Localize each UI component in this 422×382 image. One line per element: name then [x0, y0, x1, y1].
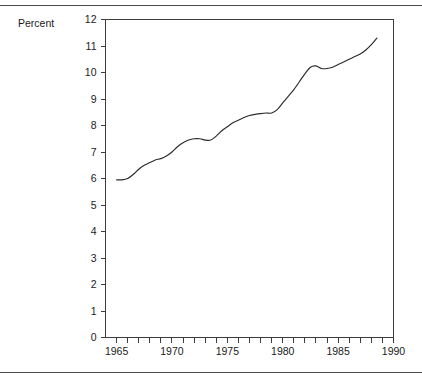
- x-axis-tick-labels: 196519701975198019851990: [105, 345, 405, 357]
- x-tick-label: 1970: [160, 345, 184, 357]
- x-tick-label: 1985: [326, 345, 350, 357]
- y-tick-label: 1: [91, 305, 97, 317]
- y-tick-label: 0: [91, 331, 97, 343]
- y-axis-title: Percent: [18, 17, 54, 29]
- figure-container: 0123456789101112 19651970197519801985199…: [0, 0, 422, 382]
- y-tick-label: 4: [91, 225, 97, 237]
- chart-svg: 0123456789101112 19651970197519801985199…: [0, 0, 422, 382]
- y-tick-label: 7: [91, 146, 97, 158]
- x-axis-ticks: [117, 338, 394, 343]
- data-series-line: [117, 38, 377, 180]
- x-tick-label: 1990: [382, 345, 406, 357]
- y-tick-label: 8: [91, 119, 97, 131]
- y-tick-label: 9: [91, 93, 97, 105]
- y-tick-label: 3: [91, 252, 97, 264]
- x-tick-label: 1975: [216, 345, 240, 357]
- y-tick-label: 12: [85, 13, 97, 25]
- x-tick-label: 1980: [271, 345, 295, 357]
- y-tick-label: 2: [91, 278, 97, 290]
- line-chart: 0123456789101112 19651970197519801985199…: [0, 0, 422, 382]
- y-tick-label: 11: [86, 40, 97, 52]
- y-axis-tick-labels: 0123456789101112: [85, 13, 97, 343]
- x-tick-label: 1965: [105, 345, 129, 357]
- y-axis-ticks: [101, 20, 106, 338]
- y-tick-label: 10: [85, 66, 97, 78]
- chart-axes: [106, 20, 394, 338]
- y-tick-label: 5: [91, 199, 97, 211]
- y-tick-label: 6: [91, 172, 97, 184]
